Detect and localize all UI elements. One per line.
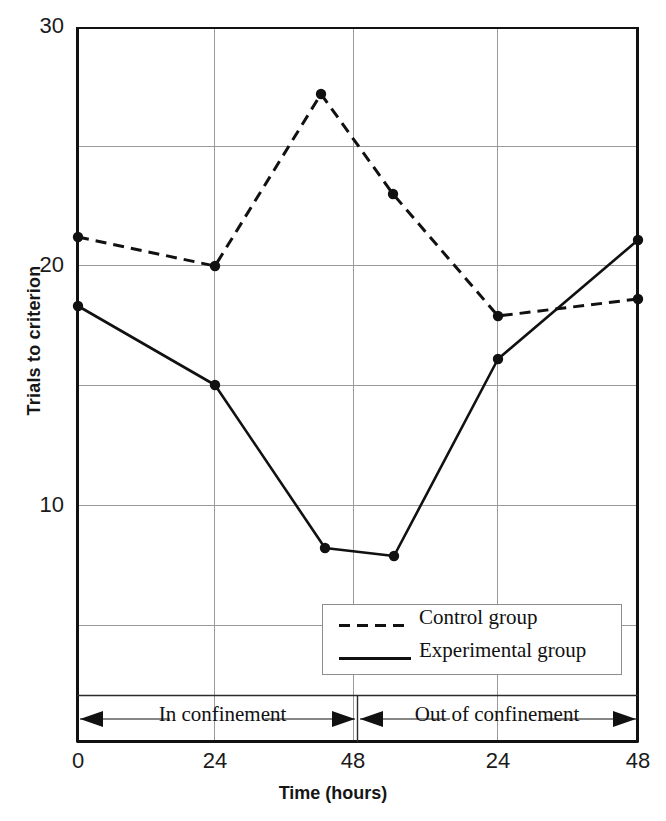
data-point	[316, 89, 326, 99]
x-axis-title: Time (hours)	[0, 783, 666, 804]
series-control-group	[73, 89, 643, 321]
data-point	[633, 235, 643, 245]
out-of-confinement-label: Out of confinement	[366, 702, 628, 727]
legend-label-control: Control group	[419, 605, 537, 630]
legend-entry-experimental: Experimental group	[323, 641, 623, 676]
chart-canvas	[0, 0, 666, 821]
x-tick-48-in: 48	[323, 748, 383, 774]
data-point	[210, 380, 220, 390]
data-point	[493, 311, 503, 321]
data-point	[633, 294, 643, 304]
legend: Control group Experimental group	[322, 604, 622, 675]
data-point	[389, 551, 399, 561]
legend-label-experimental: Experimental group	[419, 638, 586, 663]
y-axis-title: Trials to criterion	[24, 211, 45, 471]
series-experimental-group	[73, 235, 643, 561]
data-point	[493, 354, 503, 364]
data-point	[73, 232, 83, 242]
x-tick-24-in: 24	[185, 748, 245, 774]
y-tick-10: 10	[4, 492, 64, 518]
in-confinement-label: In confinement	[90, 702, 355, 727]
x-tick-0: 0	[48, 748, 108, 774]
series-line	[78, 240, 638, 556]
y-tick-30: 30	[4, 13, 64, 39]
x-tick-24-out: 24	[468, 748, 528, 774]
data-point	[73, 301, 83, 311]
data-point	[210, 261, 220, 271]
data-point	[388, 189, 398, 199]
legend-swatch-solid	[339, 657, 411, 660]
series-layer	[73, 89, 643, 561]
y-gridlines	[77, 28, 638, 626]
data-point	[320, 543, 330, 553]
x-tick-48-out: 48	[608, 748, 666, 774]
legend-swatch-dashed	[339, 624, 411, 627]
series-line	[78, 94, 638, 316]
